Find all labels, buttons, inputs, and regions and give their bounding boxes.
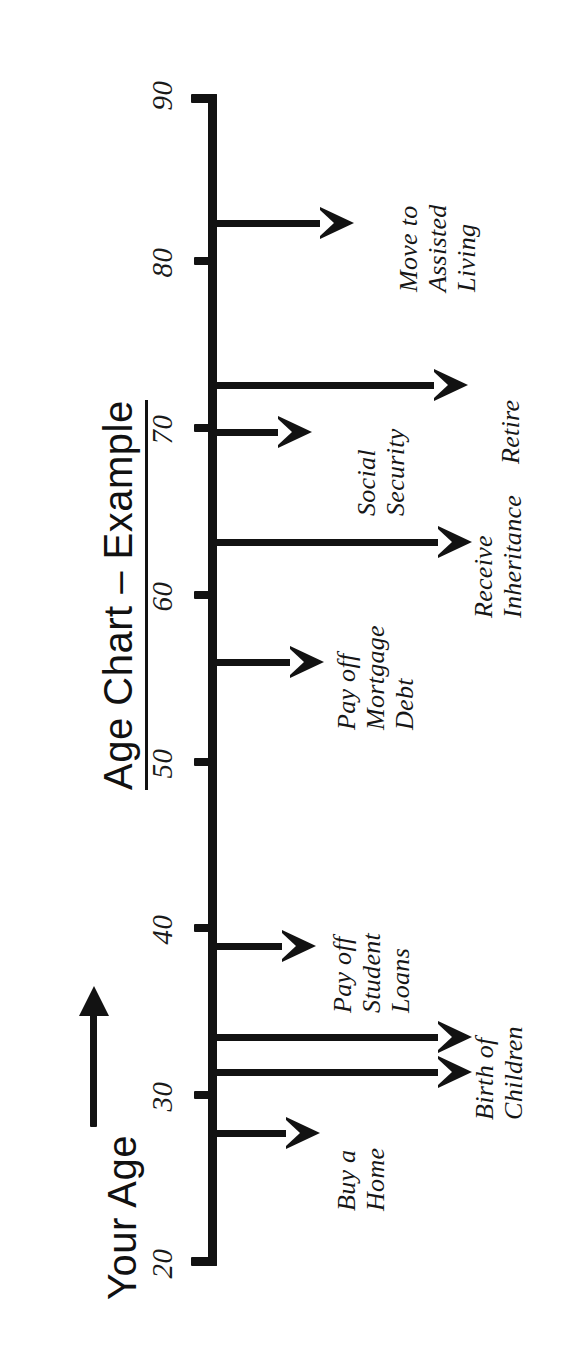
event-label-line-2: Mortgage bbox=[361, 625, 390, 730]
axis-tick-60 bbox=[194, 591, 211, 599]
up-arrow-icon bbox=[79, 986, 109, 1016]
axis-tick-70 bbox=[194, 424, 211, 432]
event-label-line-1: Social bbox=[352, 449, 381, 516]
event-label-line-1: Retire bbox=[496, 400, 525, 464]
event-label-line-1: Receive bbox=[469, 535, 498, 618]
event-label-line-3: Living bbox=[452, 224, 481, 292]
tick-label-30: 30 bbox=[146, 1057, 179, 1137]
tick-label-20: 20 bbox=[146, 1224, 179, 1304]
tick-label-40: 40 bbox=[146, 890, 179, 970]
event-label-line-1: Pay off bbox=[332, 654, 361, 730]
event-label-line-1: Move to bbox=[394, 205, 423, 292]
event-label-line-2: Inheritance bbox=[498, 495, 527, 618]
age-chart-figure: 90 80 70 60 50 40 30 20 bbox=[0, 0, 573, 1347]
event-label-line-3: Debt bbox=[390, 678, 419, 730]
axis-end-cap-20 bbox=[191, 1257, 217, 1266]
event-label-line-2: Security bbox=[381, 428, 410, 516]
tick-label-90: 90 bbox=[146, 56, 179, 136]
axis-end-cap-90 bbox=[191, 94, 217, 103]
axis-tick-30 bbox=[194, 1091, 211, 1099]
event-label-line-1: Birth of bbox=[470, 1037, 499, 1120]
tick-label-70: 70 bbox=[146, 390, 179, 470]
event-label-line-1: Pay off bbox=[328, 937, 357, 1013]
axis-tick-80 bbox=[194, 257, 211, 265]
event-label-line-2: Children bbox=[499, 1026, 528, 1120]
event-label-line-2: Home bbox=[361, 1148, 390, 1211]
page-title: Age Chart – Example bbox=[96, 400, 148, 790]
event-label-line-2: Student bbox=[357, 933, 386, 1013]
axis-direction-arrow-shaft bbox=[90, 1012, 97, 1127]
tick-label-80: 80 bbox=[146, 223, 179, 303]
event-label-line-2: Assisted bbox=[423, 204, 452, 292]
tick-label-50: 50 bbox=[146, 724, 179, 804]
event-label-line-3: Loans bbox=[386, 948, 415, 1013]
tick-label-60: 60 bbox=[146, 557, 179, 637]
axis-tick-50 bbox=[194, 758, 211, 766]
event-label-line-1: Buy a bbox=[332, 1150, 361, 1211]
axis-tick-40 bbox=[194, 924, 211, 932]
axis-title: Your Age bbox=[100, 1135, 145, 1300]
